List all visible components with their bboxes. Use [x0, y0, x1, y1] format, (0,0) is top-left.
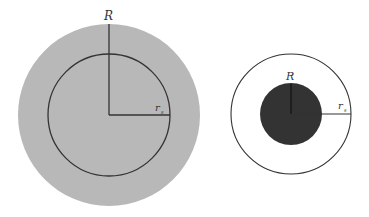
- right-diagram: R r s: [231, 54, 351, 174]
- diagram-canvas: R r s R r s: [0, 0, 369, 217]
- left-diagram: R r s: [18, 9, 200, 206]
- left-label-R: R: [103, 9, 113, 23]
- right-label-r-subscript: s: [344, 107, 347, 113]
- left-label-r-subscript: s: [161, 109, 164, 115]
- right-label-R: R: [285, 70, 294, 83]
